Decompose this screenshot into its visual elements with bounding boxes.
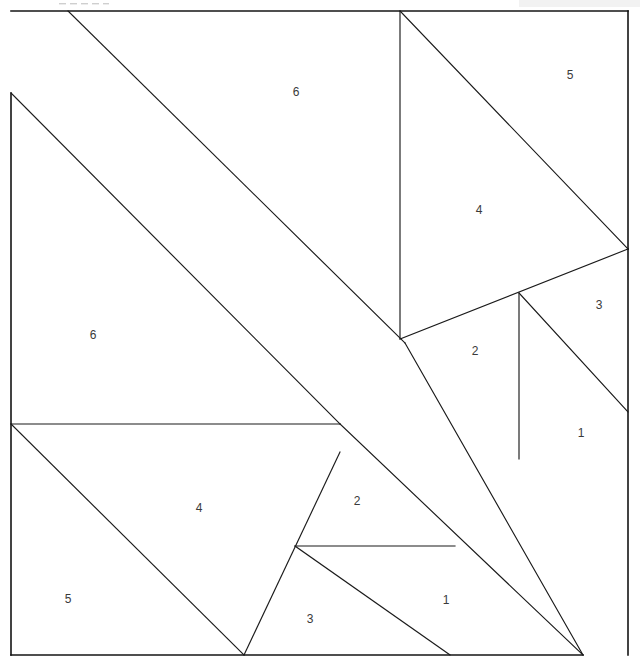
- piece-label-2-lower: 2: [354, 494, 361, 508]
- top-dash-2: [81, 3, 88, 4]
- piece-label-3-lower: 3: [307, 612, 314, 626]
- piece-label-1-upper: 1: [578, 426, 585, 440]
- corner-smudge-mark: [519, 0, 640, 7]
- top-dash-1: [70, 3, 77, 4]
- piece-label-1-lower: 1: [443, 593, 450, 607]
- piece-label-2-upper: 2: [472, 344, 479, 358]
- top-dash-marks: [59, 3, 109, 4]
- piece-label-6-lower: 6: [90, 328, 97, 342]
- piece-label-3-upper: 3: [596, 298, 603, 312]
- piece-label-4-upper: 4: [476, 203, 483, 217]
- piece-label-5-lower: 5: [65, 592, 72, 606]
- piece-label-4-lower: 4: [196, 501, 203, 515]
- piece-faces-group: [11, 11, 628, 655]
- scan-artifacts-group: [59, 0, 640, 7]
- dissection-figure: 6 5 4 3 2 1 6 4 2 5 3 1: [0, 0, 640, 668]
- top-dash-0: [59, 3, 66, 4]
- dissection-svg: 6 5 4 3 2 1 6 4 2 5 3 1: [0, 0, 640, 668]
- top-dash-3: [92, 3, 99, 4]
- piece-label-5-upper: 5: [567, 68, 574, 82]
- top-dash-4: [103, 3, 109, 4]
- piece-label-6-upper: 6: [293, 85, 300, 99]
